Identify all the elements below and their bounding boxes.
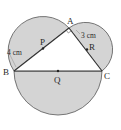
- geometry-diagram: A B C P Q R 4 cm 3 cm: [0, 0, 121, 130]
- label-b: B: [3, 67, 9, 77]
- measure-label-4cm: 4 cm: [7, 48, 22, 57]
- point-q-dot: [57, 70, 59, 72]
- label-a: A: [67, 16, 74, 26]
- point-p-dot: [42, 47, 44, 49]
- label-p: P: [40, 37, 45, 47]
- label-r: R: [89, 42, 95, 52]
- label-c: C: [104, 71, 110, 81]
- point-r-dot: [86, 48, 88, 50]
- measure-label-3cm: 3 cm: [81, 31, 96, 40]
- label-q: Q: [54, 75, 61, 85]
